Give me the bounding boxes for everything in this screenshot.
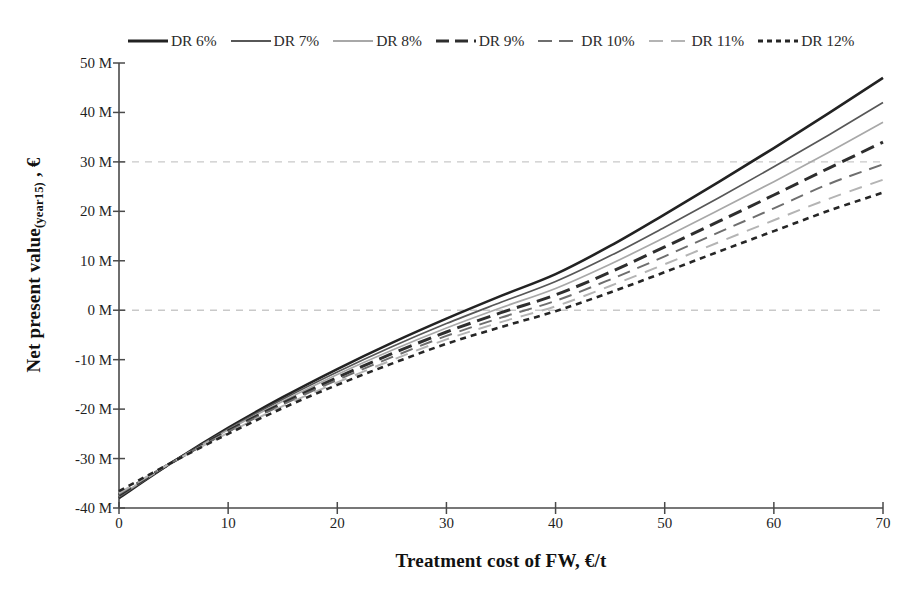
series-line-dr-6 <box>119 78 883 498</box>
npv-sensitivity-chart: DR 6% DR 7% DR 8% DR 9% DR 10% <box>0 0 924 593</box>
series-line-dr-10 <box>119 164 883 494</box>
series-line-dr-12 <box>119 193 883 492</box>
series-line-dr-8 <box>119 122 883 496</box>
plot-area <box>0 0 924 593</box>
series-line-dr-11 <box>119 180 883 493</box>
